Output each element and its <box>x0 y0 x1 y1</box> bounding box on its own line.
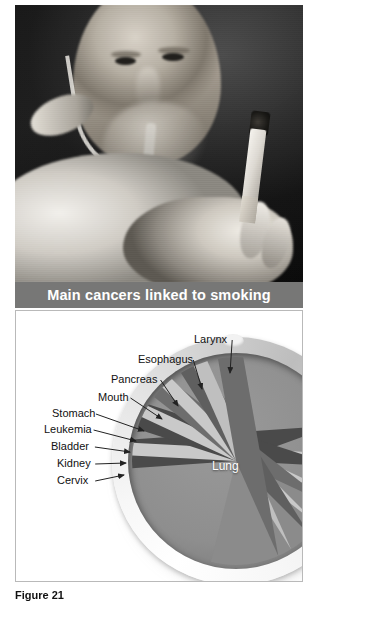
figure-caption: Figure 21 <box>15 589 64 601</box>
label-mouth: Mouth <box>98 391 129 403</box>
banner-title-bar: Main cancers linked to smoking <box>15 282 303 308</box>
label-esophagus: Esophagus <box>138 353 193 365</box>
label-larynx: Larynx <box>194 333 227 345</box>
diagram-panel: LarynxEsophagusPancreasMouthStomachLeuke… <box>15 310 303 582</box>
label-lung: Lung <box>212 459 239 473</box>
smoker-photograph <box>15 5 303 282</box>
diagram-clip: LarynxEsophagusPancreasMouthStomachLeuke… <box>16 311 302 581</box>
label-bladder: Bladder <box>51 440 89 452</box>
label-cervix: Cervix <box>57 474 88 486</box>
photo-grain-overlay <box>15 5 303 282</box>
label-pancreas: Pancreas <box>111 373 157 385</box>
diagram-label-layer: LarynxEsophagusPancreasMouthStomachLeuke… <box>16 311 302 581</box>
figure-root: Main cancers linked to smoking LarynxEso… <box>0 0 371 627</box>
label-leukemia: Leukemia <box>44 423 92 435</box>
banner-title-text: Main cancers linked to smoking <box>47 287 271 303</box>
label-kidney: Kidney <box>57 457 91 469</box>
label-stomach: Stomach <box>52 407 95 419</box>
